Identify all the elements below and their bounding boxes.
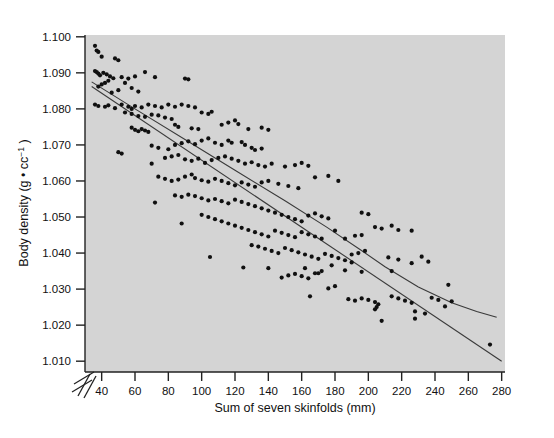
data-point: [186, 77, 190, 81]
data-point: [293, 163, 297, 167]
data-point: [330, 254, 334, 258]
data-point: [380, 226, 384, 230]
data-point: [256, 244, 260, 248]
data-point: [336, 179, 340, 183]
data-point: [293, 217, 297, 221]
data-point: [233, 118, 237, 122]
data-point: [226, 201, 230, 205]
data-point: [343, 268, 347, 272]
data-point: [410, 261, 414, 265]
data-point: [403, 299, 407, 303]
data-point: [308, 294, 312, 298]
data-point: [120, 75, 124, 79]
data-point: [233, 183, 237, 187]
data-point: [300, 274, 304, 278]
data-point: [190, 172, 194, 176]
y-tick-label: 1.010: [42, 355, 71, 367]
data-point: [306, 232, 310, 236]
data-point: [260, 206, 264, 210]
data-point: [206, 198, 210, 202]
data-point: [226, 181, 230, 185]
data-point: [240, 200, 244, 204]
data-point: [300, 230, 304, 234]
y-tick-label: 1.050: [42, 211, 71, 223]
data-point: [123, 110, 127, 114]
data-point: [183, 157, 187, 161]
y-tick-label: 1.090: [42, 67, 71, 79]
data-point: [300, 219, 304, 223]
y-tick-label: 1.070: [42, 139, 71, 151]
data-point: [333, 229, 337, 233]
data-point: [293, 272, 297, 276]
data-point: [360, 296, 364, 300]
data-point: [250, 160, 254, 164]
x-tick-label: 200: [359, 385, 378, 397]
data-point: [170, 117, 174, 121]
data-point: [220, 219, 224, 223]
data-point: [283, 164, 287, 168]
data-point: [343, 258, 347, 262]
data-point: [323, 252, 327, 256]
data-point: [390, 224, 394, 228]
data-point: [150, 144, 154, 148]
data-point: [320, 237, 324, 241]
data-point: [180, 102, 184, 106]
data-point: [130, 112, 134, 116]
data-point: [106, 103, 110, 107]
data-point: [213, 217, 217, 221]
data-point: [150, 113, 154, 117]
data-point: [156, 175, 160, 179]
data-point: [286, 273, 290, 277]
data-point: [200, 213, 204, 217]
data-point: [133, 74, 137, 78]
data-point: [363, 249, 367, 253]
data-point: [360, 211, 364, 215]
data-point: [176, 153, 180, 157]
data-point: [156, 113, 160, 117]
data-point: [213, 177, 217, 181]
x-tick-label: 100: [192, 385, 211, 397]
data-point: [250, 243, 254, 247]
data-point: [246, 228, 250, 232]
data-point: [350, 252, 354, 256]
data-point: [96, 50, 100, 54]
data-point: [386, 255, 390, 259]
data-point: [180, 195, 184, 199]
data-point: [160, 105, 164, 109]
y-tick-label: 1.080: [42, 103, 71, 115]
data-point: [276, 182, 280, 186]
data-point: [213, 197, 217, 201]
data-point: [190, 159, 194, 163]
data-point: [266, 266, 270, 270]
data-point: [236, 159, 240, 163]
x-tick-label: 160: [292, 385, 311, 397]
data-point: [273, 211, 277, 215]
y-tick-label: 1.040: [42, 247, 71, 259]
data-point: [413, 309, 417, 313]
data-point: [223, 154, 227, 158]
data-point: [420, 255, 424, 259]
x-tick-label: 240: [425, 385, 444, 397]
data-point: [253, 230, 257, 234]
x-tick-label: 180: [325, 385, 344, 397]
data-point: [263, 164, 267, 168]
data-point: [280, 275, 284, 279]
data-point: [210, 158, 214, 162]
data-point: [236, 122, 240, 126]
data-point: [196, 157, 200, 161]
scatter-plot-figure: 1.0101.0201.0301.0401.0501.0601.0701.080…: [0, 0, 554, 438]
data-point: [260, 180, 264, 184]
data-point: [266, 208, 270, 212]
data-point: [186, 139, 190, 143]
y-tick-label: 1.020: [42, 319, 71, 331]
x-tick-label: 220: [392, 385, 411, 397]
data-point: [488, 343, 492, 347]
data-point: [310, 255, 314, 259]
data-point: [200, 178, 204, 182]
data-point: [350, 260, 354, 264]
data-point: [241, 265, 245, 269]
data-point: [200, 110, 204, 114]
data-point: [320, 214, 324, 218]
data-point: [343, 237, 347, 241]
data-point: [286, 184, 290, 188]
